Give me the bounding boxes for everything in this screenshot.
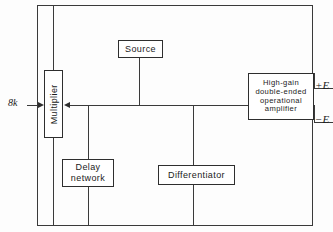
block-differentiator[interactable]: Differentiator [158, 165, 235, 185]
block-multiplier-label: Multiplier [48, 84, 59, 124]
differentiator-output-line [193, 185, 194, 225]
block-differentiator-label: Differentiator [168, 170, 225, 181]
block-delay-network[interactable]: Delay network [62, 159, 114, 187]
source-drop-line [139, 58, 140, 105]
positive-output-label: +E [315, 79, 329, 91]
main-signal-bus-line [70, 105, 248, 106]
block-operational-amplifier[interactable]: High-gain double-ended operational ampli… [248, 73, 314, 120]
block-source-label: Source [125, 44, 156, 55]
frame-left-line [37, 5, 38, 225]
negative-output-label: −E [315, 113, 329, 125]
frame-bottom-line [37, 225, 313, 226]
block-multiplier[interactable]: Multiplier [44, 70, 63, 138]
delay-tap-line [88, 105, 89, 159]
block-diagram-canvas: Source Multiplier High-gain double-ended… [0, 0, 333, 232]
differentiator-tap-line [193, 105, 194, 165]
multiplier-bottom-feed-line [53, 138, 54, 225]
block-operational-amplifier-label: High-gain double-ended operational ampli… [255, 79, 306, 115]
arrow-left-icon [64, 102, 70, 108]
block-source[interactable]: Source [118, 40, 163, 58]
multiplier-top-feed-line [53, 5, 54, 70]
delay-output-line [88, 187, 89, 225]
block-delay-network-label: Delay network [71, 162, 105, 183]
frame-top-line [37, 5, 313, 6]
input-signal-label: 8k [8, 97, 17, 108]
